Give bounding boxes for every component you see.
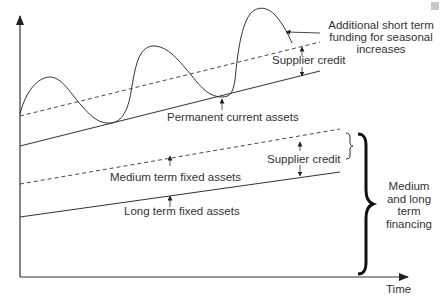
x-axis-label: Time <box>386 283 411 295</box>
medium-term-fixed-assets-label: Medium term fixed assets <box>110 171 241 183</box>
supplier-credit-brace <box>346 133 353 159</box>
financing-label-line3: term <box>378 205 440 218</box>
permanent-current-assets-line <box>20 71 320 146</box>
financing-brace <box>358 134 373 274</box>
supplier-credit-bottom-label: Supplier credit <box>267 153 341 165</box>
financing-label-line1: Medium <box>378 180 440 193</box>
short-term-funding-label: Additional short term funding for season… <box>322 19 440 55</box>
financing-label: Medium and long term financing <box>378 180 440 230</box>
permanent-current-assets-label: Permanent current assets <box>167 111 299 123</box>
financing-label-line2: and long <box>378 193 440 206</box>
short-term-pointer-arrow <box>286 32 320 33</box>
supplier-credit-top-label: Supplier credit <box>272 54 346 66</box>
short-term-label-line1: Additional short term <box>322 19 440 31</box>
corner-marker <box>431 2 439 10</box>
short-term-label-line2: funding for seasonal <box>322 31 440 43</box>
long-term-fixed-assets-label: Long term fixed assets <box>124 205 240 217</box>
financing-label-line4: financing <box>378 218 440 231</box>
